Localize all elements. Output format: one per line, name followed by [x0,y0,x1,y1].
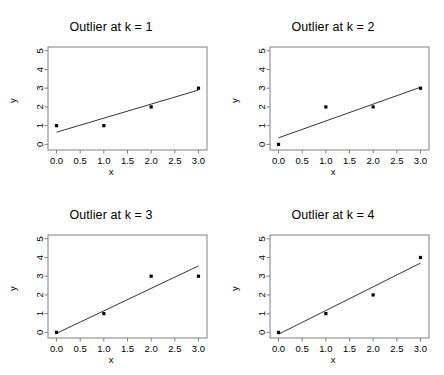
plot-frame [48,235,207,338]
plot-area-1: 0.00.51.01.52.02.53.0012345 [222,0,444,188]
y-tick-label: 5 [257,236,268,241]
plot-panel-1: Outlier at k = 2 0.00.51.01.52.02.53.001… [222,0,444,188]
x-tick-label: 2.5 [168,155,181,166]
x-tick-label: 0.0 [50,155,63,166]
y-tick-label: 2 [35,292,46,297]
y-tick-label: 5 [35,236,46,241]
x-tick-label: 2.0 [145,155,158,166]
plot-frame [270,47,429,150]
y-axis-label: y [229,86,240,116]
y-tick-label: 2 [35,104,46,109]
regression-line [279,263,421,334]
x-tick-label: 1.0 [319,155,332,166]
x-tick-label: 2.0 [367,343,380,354]
x-tick-label: 2.5 [390,155,403,166]
x-tick-label: 1.5 [121,343,134,354]
x-axis-label: x [222,166,444,177]
data-point [197,275,200,278]
y-tick-label: 2 [257,104,268,109]
data-point [150,275,153,278]
plot-panel-2: Outlier at k = 3 0.00.51.01.52.02.53.001… [0,188,222,375]
y-tick-label: 2 [257,292,268,297]
x-tick-label: 1.5 [343,343,356,354]
x-tick-label: 3.0 [192,155,205,166]
y-tick-label: 0 [257,330,268,335]
y-tick-label: 4 [257,67,268,72]
x-tick-label: 3.0 [192,343,205,354]
y-tick-label: 3 [35,274,46,279]
y-tick-label: 0 [257,142,268,147]
data-point [419,256,422,259]
x-tick-label: 0.0 [50,343,63,354]
data-point [372,105,375,108]
y-tick-label: 3 [257,86,268,91]
y-tick-label: 3 [257,274,268,279]
x-tick-label: 1.0 [97,155,110,166]
plot-area-3: 0.00.51.01.52.02.53.0012345 [222,188,444,375]
data-point [197,87,200,90]
x-tick-label: 0.5 [74,155,87,166]
y-tick-label: 4 [257,255,268,260]
plot-panel-0: Outlier at k = 1 0.00.51.01.52.02.53.001… [0,0,222,188]
x-tick-label: 2.0 [367,155,380,166]
x-tick-label: 3.0 [414,155,427,166]
x-tick-label: 2.5 [168,343,181,354]
y-axis-label: y [7,274,18,304]
x-tick-label: 0.0 [272,343,285,354]
data-point [102,312,105,315]
plot-area-2: 0.00.51.01.52.02.53.0012345 [0,188,222,375]
regression-line [57,90,199,132]
plot-frame [270,235,429,338]
data-point [277,331,280,334]
data-point [277,143,280,146]
x-axis-label: x [0,354,222,365]
x-tick-label: 2.0 [145,343,158,354]
x-tick-label: 3.0 [414,343,427,354]
data-point [419,87,422,90]
y-tick-label: 1 [35,123,46,128]
x-axis-label: x [0,166,222,177]
data-point [372,293,375,296]
plot-panel-3: Outlier at k = 4 0.00.51.01.52.02.53.001… [222,188,444,375]
y-tick-label: 0 [35,142,46,147]
figure-grid: Outlier at k = 1 0.00.51.01.52.02.53.001… [0,0,444,375]
x-tick-label: 2.5 [390,343,403,354]
y-axis-label: y [7,86,18,116]
x-tick-label: 1.5 [343,155,356,166]
regression-line [57,266,199,333]
x-tick-label: 0.5 [74,343,87,354]
regression-line [279,87,421,138]
data-point [55,331,58,334]
y-tick-label: 3 [35,86,46,91]
plot-area-0: 0.00.51.01.52.02.53.0012345 [0,0,222,188]
y-tick-label: 0 [35,330,46,335]
x-tick-label: 1.5 [121,155,134,166]
x-tick-label: 0.0 [272,155,285,166]
y-tick-label: 4 [35,255,46,260]
data-point [324,312,327,315]
data-point [102,124,105,127]
x-tick-label: 1.0 [319,343,332,354]
data-point [150,105,153,108]
x-tick-label: 1.0 [97,343,110,354]
x-tick-label: 0.5 [296,343,309,354]
data-point [324,105,327,108]
y-tick-label: 5 [257,48,268,53]
y-tick-label: 1 [35,311,46,316]
x-tick-label: 0.5 [296,155,309,166]
data-point [55,124,58,127]
y-tick-label: 4 [35,67,46,72]
y-tick-label: 1 [257,123,268,128]
y-tick-label: 5 [35,48,46,53]
plot-frame [48,47,207,150]
y-tick-label: 1 [257,311,268,316]
y-axis-label: y [229,274,240,304]
x-axis-label: x [222,354,444,365]
